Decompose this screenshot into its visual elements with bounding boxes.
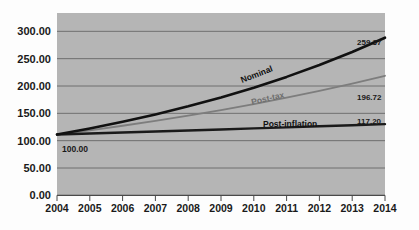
y-tick-label-200: 200.00 xyxy=(17,80,51,92)
x-tick-label-2013: 2013 xyxy=(341,202,365,214)
x-tick-label-2004: 2004 xyxy=(45,202,69,214)
x-tick-label-2010: 2010 xyxy=(242,202,266,214)
y-tick-label-300: 300.00 xyxy=(17,25,51,37)
x-tick-label-2011: 2011 xyxy=(275,202,298,214)
x-tick-label-2006: 2006 xyxy=(111,202,135,214)
line-chart: 300.00 250.00 200.00 150.00 100.00 50.00… xyxy=(0,0,419,230)
end-value-label-nominal: 259.37 xyxy=(357,38,382,47)
series-label-post-inflation: Post-inflation xyxy=(263,119,317,129)
x-tick-label-2009: 2009 xyxy=(209,202,233,214)
y-axis-labels: 300.00 250.00 200.00 150.00 100.00 50.00… xyxy=(17,25,51,201)
start-value-label-100: 100.00 xyxy=(62,144,88,154)
y-tick-label-100: 100.00 xyxy=(17,135,51,147)
x-axis-labels: 2004 2005 2006 2007 2008 2009 2010 2011 … xyxy=(45,202,397,214)
y-tick-label-0: 0.00 xyxy=(30,189,51,201)
x-tick-label-2012: 2012 xyxy=(308,202,332,214)
x-tick-label-2014: 2014 xyxy=(373,202,397,214)
end-value-label-post-tax: 196.72 xyxy=(357,93,382,102)
y-tick-label-150: 150.00 xyxy=(17,107,51,119)
y-tick-label-50: 50.00 xyxy=(23,162,51,174)
x-tick-label-2007: 2007 xyxy=(144,202,168,214)
x-tick-label-2005: 2005 xyxy=(78,202,102,214)
x-axis-ticks xyxy=(57,195,385,201)
chart-container: 300.00 250.00 200.00 150.00 100.00 50.00… xyxy=(0,0,419,230)
y-tick-label-250: 250.00 xyxy=(17,53,51,65)
end-value-label-post-inflation: 117.20 xyxy=(357,117,382,126)
x-tick-label-2008: 2008 xyxy=(177,202,201,214)
